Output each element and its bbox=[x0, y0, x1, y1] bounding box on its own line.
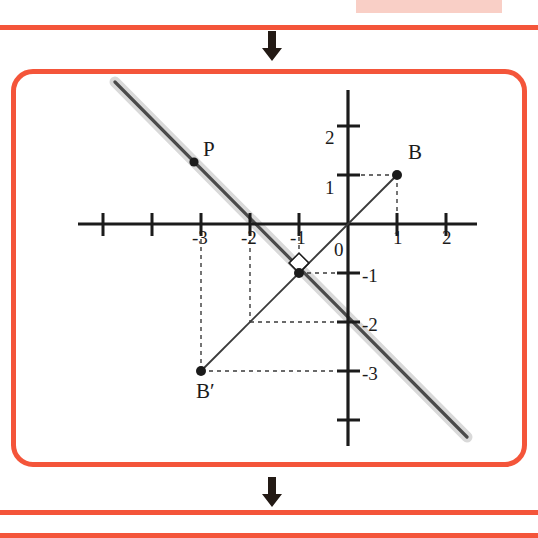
point-label-b: B bbox=[408, 142, 422, 163]
bottom-frame-divider-top bbox=[0, 510, 538, 515]
x-tick-label--1: -1 bbox=[290, 228, 306, 247]
point-label-b-prime: Bʹ bbox=[196, 381, 215, 402]
diagram-panel bbox=[11, 69, 527, 467]
top-pink-panel bbox=[356, 0, 502, 13]
top-frame-divider bbox=[0, 25, 538, 30]
y-tick-label--1: -1 bbox=[362, 266, 378, 285]
page-root: -3 -2 -1 0 1 2 2 1 -1 -2 -3 P B Bʹ bbox=[0, 0, 538, 538]
bottom-frame-divider-bottom bbox=[0, 533, 538, 538]
y-tick-label--3: -3 bbox=[362, 364, 378, 383]
down-arrow-icon-top bbox=[257, 31, 287, 61]
y-tick-label--2: -2 bbox=[362, 315, 378, 334]
y-tick-label-2: 2 bbox=[325, 128, 335, 147]
down-arrow-icon-bottom bbox=[257, 477, 287, 507]
y-tick-label-1: 1 bbox=[325, 178, 335, 197]
x-tick-label--3: -3 bbox=[192, 228, 208, 247]
x-tick-label-0: 0 bbox=[334, 240, 344, 259]
point-label-p: P bbox=[203, 139, 215, 160]
x-tick-label-1: 1 bbox=[393, 228, 403, 247]
x-tick-label-2: 2 bbox=[442, 228, 452, 247]
x-tick-label--2: -2 bbox=[241, 228, 257, 247]
